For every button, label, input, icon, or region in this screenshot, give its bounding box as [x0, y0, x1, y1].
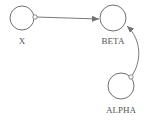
graph-diagram: X BETA ALPHA — [0, 0, 148, 121]
node-x-label: X — [19, 36, 26, 46]
node-beta-label: BETA — [102, 36, 125, 46]
node-beta[interactable]: BETA — [100, 5, 126, 46]
edge-x-to-beta[interactable] — [36, 17, 99, 19]
node-beta-circle[interactable] — [100, 5, 126, 31]
node-x[interactable]: X — [10, 6, 37, 46]
node-alpha-label: ALPHA — [106, 105, 137, 115]
edge-alpha-to-beta[interactable] — [127, 26, 139, 77]
node-x-circle[interactable] — [10, 6, 34, 30]
node-alpha[interactable]: ALPHA — [106, 73, 137, 115]
node-x-port-icon — [33, 15, 37, 19]
node-alpha-port-icon — [129, 75, 133, 79]
